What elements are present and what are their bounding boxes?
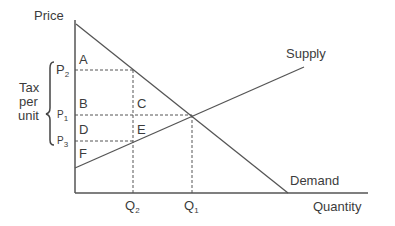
demand-curve bbox=[76, 24, 288, 193]
q1-label: Q1 bbox=[184, 198, 199, 215]
x-axis-label: Quantity bbox=[313, 199, 362, 214]
tax-label-line3: unit bbox=[18, 108, 39, 123]
tax-label-line2: per bbox=[19, 94, 38, 109]
area-c-label: C bbox=[137, 96, 146, 111]
supply-curve bbox=[75, 67, 304, 168]
p2-label: P2 bbox=[56, 62, 70, 79]
area-f-label: F bbox=[79, 146, 87, 161]
y-axis-label: Price bbox=[34, 8, 64, 23]
tax-label-line1: Tax bbox=[19, 80, 40, 95]
area-d-label: D bbox=[79, 122, 88, 137]
tax-incidence-diagram: Price Quantity Supply Demand Tax per uni… bbox=[0, 0, 395, 226]
q2-label: Q2 bbox=[125, 198, 140, 215]
tax-bracket bbox=[46, 62, 54, 145]
area-a-label: A bbox=[79, 52, 88, 67]
p3-label: P3 bbox=[57, 135, 69, 149]
area-e-label: E bbox=[137, 122, 146, 137]
supply-label: Supply bbox=[286, 46, 326, 61]
area-b-label: B bbox=[79, 96, 88, 111]
p1-label: P1 bbox=[57, 109, 69, 123]
demand-label: Demand bbox=[290, 173, 339, 188]
